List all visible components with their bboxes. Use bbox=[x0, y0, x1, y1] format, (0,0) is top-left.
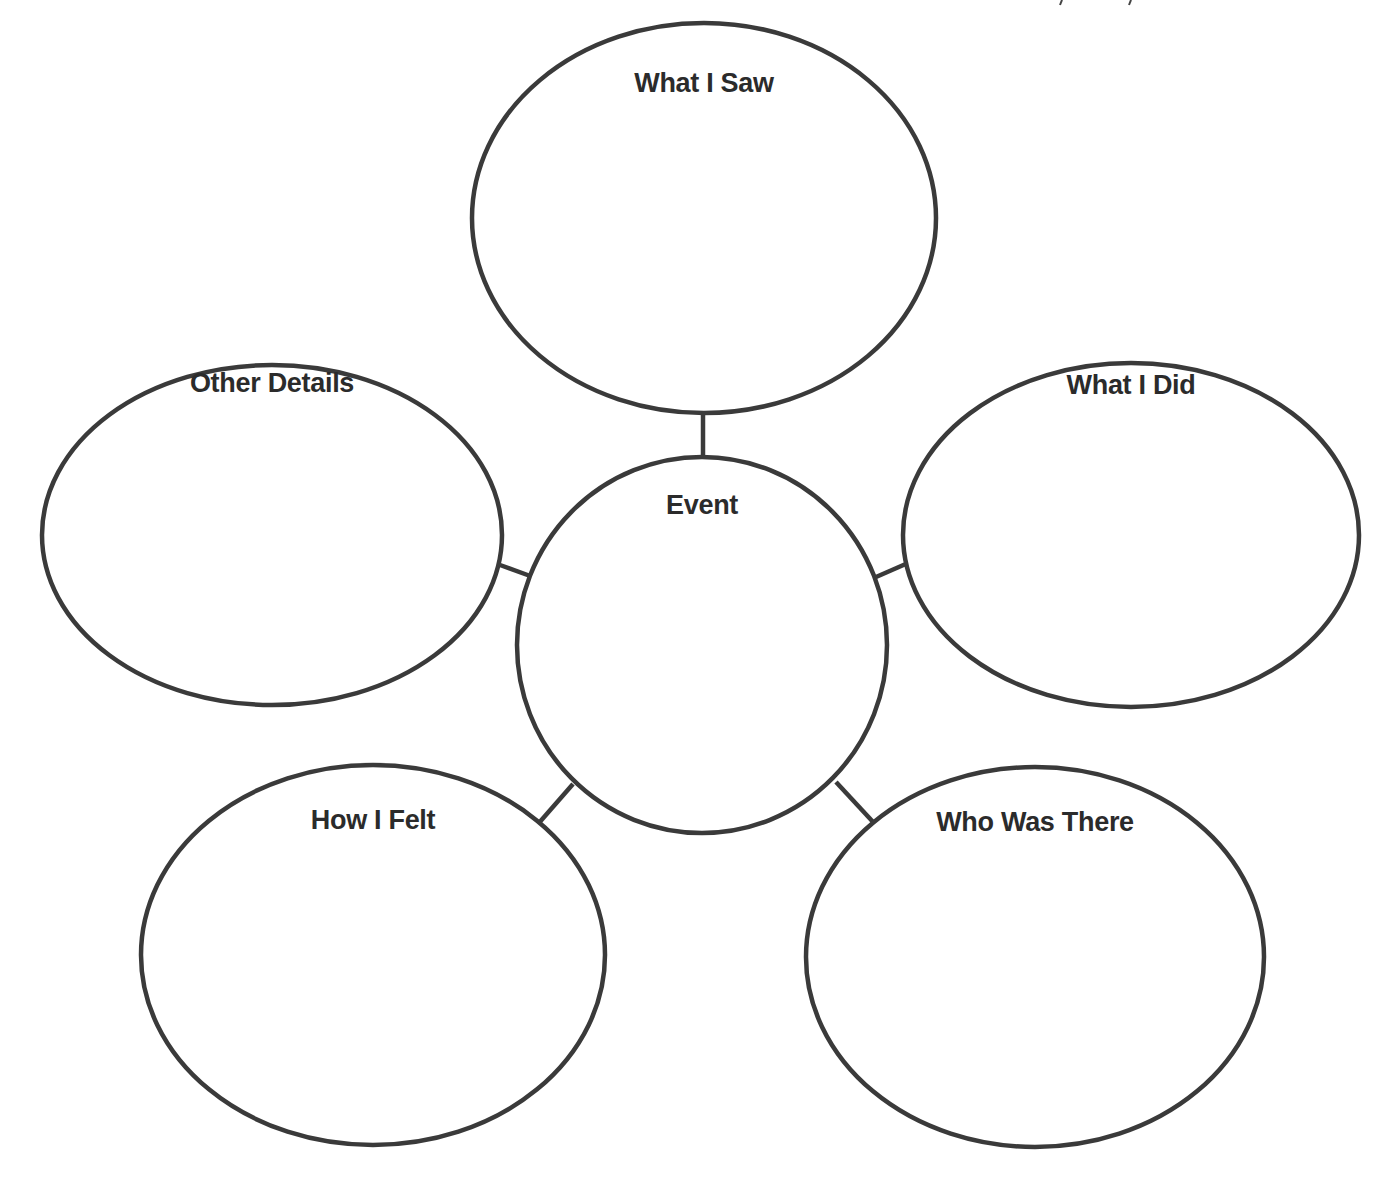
bubble-what-i-saw[interactable]: What I Saw bbox=[472, 23, 936, 413]
label-who-was-there: Who Was There bbox=[936, 807, 1134, 837]
bubble-what-i-did[interactable]: What I Did bbox=[903, 363, 1359, 707]
connector-what-i-did bbox=[876, 563, 908, 577]
label-event: Event bbox=[666, 490, 738, 520]
label-what-i-did: What I Did bbox=[1067, 370, 1196, 400]
connector-how-i-felt bbox=[538, 784, 573, 824]
cropped-header-marks bbox=[1060, 0, 1131, 5]
bubble-who-was-there[interactable]: Who Was There bbox=[806, 767, 1264, 1147]
connector-who-was-there bbox=[836, 782, 874, 823]
event-web-diagram: What I Saw Other Details What I Did How … bbox=[0, 0, 1388, 1178]
label-other-details: Other Details bbox=[190, 368, 354, 398]
ellipse-other-details[interactable] bbox=[42, 365, 502, 705]
ellipse-what-i-did[interactable] bbox=[903, 363, 1359, 707]
bubble-event-center[interactable]: Event bbox=[517, 457, 887, 833]
bubble-other-details[interactable]: Other Details bbox=[42, 365, 502, 705]
label-what-i-saw: What I Saw bbox=[634, 68, 775, 98]
label-how-i-felt: How I Felt bbox=[311, 805, 436, 835]
bubble-how-i-felt[interactable]: How I Felt bbox=[141, 765, 605, 1145]
